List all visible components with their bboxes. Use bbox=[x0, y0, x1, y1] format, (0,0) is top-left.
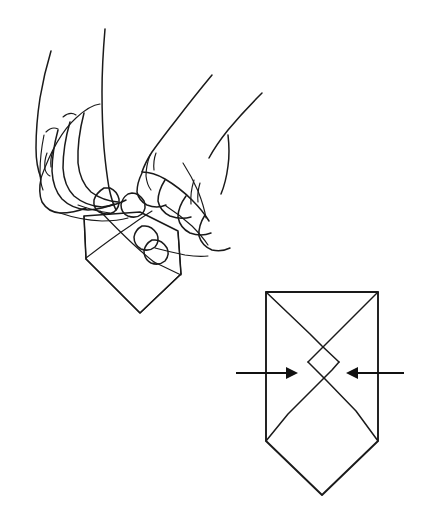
illustration-canvas bbox=[0, 0, 432, 526]
illustration-figure: Paper folding step: pressing the folded … bbox=[0, 0, 432, 526]
